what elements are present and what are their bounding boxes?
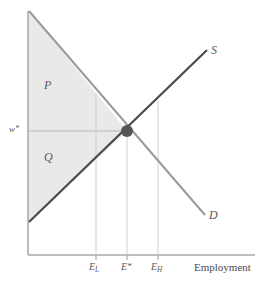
region-label-P: P [44, 78, 51, 93]
wage-star-superscript: * [15, 124, 19, 133]
tick-label-EH: EH [151, 261, 162, 274]
tick-label-EL: EL [89, 261, 99, 274]
supply-curve-label: S [211, 43, 217, 58]
tick-label-EL-subscript: L [95, 266, 99, 274]
region-label-Q: Q [44, 150, 53, 165]
supply-demand-figure: P Q S D w* EL E* EH Employment [0, 0, 269, 281]
tick-label-Estar-superscript: * [127, 261, 132, 271]
wage-star-label: w* [9, 124, 19, 134]
equilibrium-point [121, 125, 133, 137]
tick-label-Estar: E* [121, 261, 132, 272]
demand-curve-label: D [209, 208, 218, 223]
tick-label-EH-subscript: H [157, 266, 162, 274]
x-axis-label: Employment [194, 261, 251, 273]
plot-canvas [0, 0, 269, 281]
